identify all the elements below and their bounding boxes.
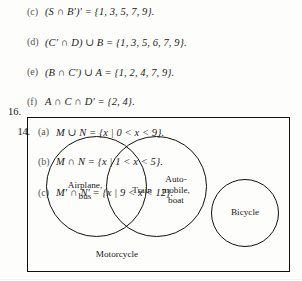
answer-sublabel: (c) xyxy=(27,6,38,17)
answer-row-e: (e) (B ∩ C′) ∪ A = {1, 2, 4, 7, 9}. xyxy=(0,66,302,81)
venn-universe-rectangle: Airplane, bus Train Auto- mobile, boat B… xyxy=(27,117,290,272)
answer-sublabel: (f) xyxy=(27,96,37,107)
venn-label-airplane-bus: Airplane, bus xyxy=(54,180,116,201)
venn-label-line-2: bus xyxy=(79,191,92,201)
venn-label-line-2: mobile, xyxy=(162,185,190,195)
venn-label-line-1: Airplane, xyxy=(68,180,102,190)
venn-label-line-1: Auto- xyxy=(165,174,186,184)
answer-sublabel: (d) xyxy=(27,36,39,47)
textbook-answer-page: (c) (S ∩ B′)′ = {1, 3, 5, 7, 9}. (d) (C′… xyxy=(0,0,302,281)
answer-row-c1: (c) (S ∩ B′)′ = {1, 3, 5, 7, 9}. xyxy=(0,6,302,21)
venn-label-line-1: Motorcycle xyxy=(96,249,138,259)
venn-label-bicycle: Bicycle xyxy=(218,207,272,218)
answer-row-f: (f) A ∩ C ∩ D′ = {2, 4}. xyxy=(0,96,302,111)
venn-label-line-3: boat xyxy=(168,195,184,205)
venn-label-motorcycle: Motorcycle xyxy=(72,249,162,260)
answer-row-d: (d) (C′ ∩ D) ∪ B = {1, 3, 5, 6, 7, 9}. xyxy=(0,36,302,51)
answer-expression: A ∩ C ∩ D′ = {2, 4}. xyxy=(45,96,135,107)
answer-expression: (C′ ∩ D) ∪ B = {1, 3, 5, 6, 7, 9}. xyxy=(45,36,187,48)
venn-label-automobile-boat: Auto- mobile, boat xyxy=(148,174,204,206)
scan-artifact xyxy=(0,279,302,280)
answer-expression: (S ∩ B′)′ = {1, 3, 5, 7, 9}. xyxy=(45,6,155,17)
answer-expression: (B ∩ C′) ∪ A = {1, 2, 4, 7, 9}. xyxy=(45,66,174,78)
venn-problem-number: 16. xyxy=(8,106,21,117)
venn-label-line-1: Bicycle xyxy=(231,207,259,217)
answer-sublabel: (e) xyxy=(27,66,38,77)
answer-list: (c) (S ∩ B′)′ = {1, 3, 5, 7, 9}. (d) (C′… xyxy=(0,0,302,106)
